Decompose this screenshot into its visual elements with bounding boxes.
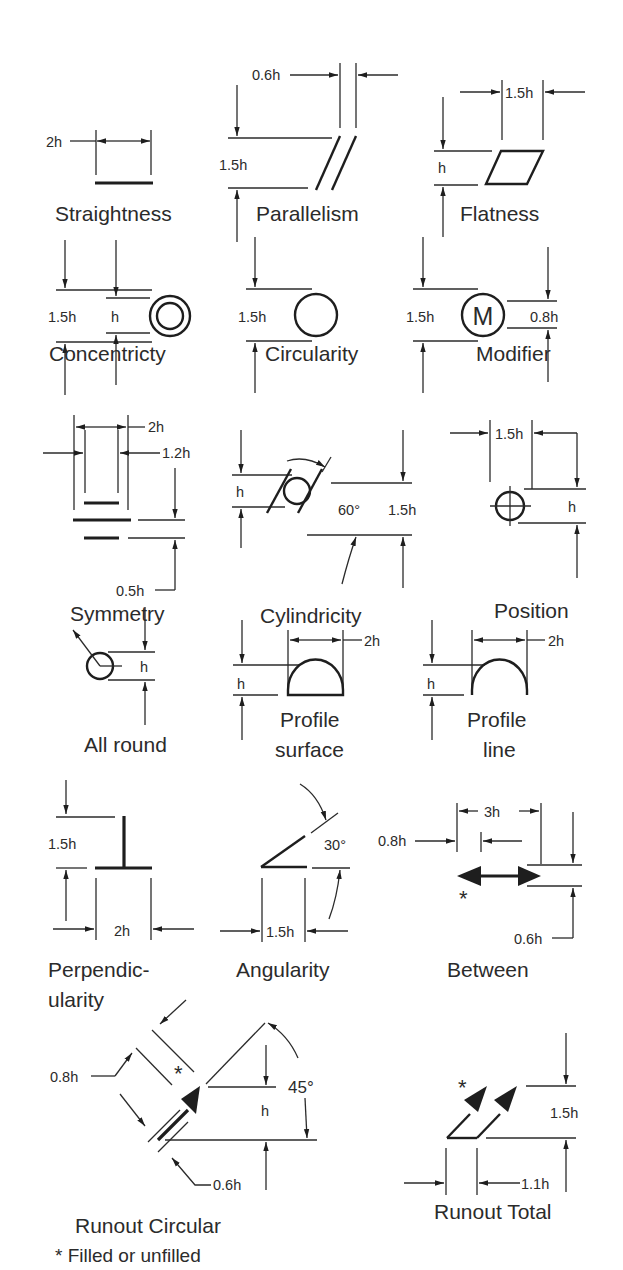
symbol-label-parallelism: Parallelism	[256, 202, 359, 225]
dim-label: 1.2h	[162, 445, 190, 461]
dim-label: 0.8h	[50, 1069, 78, 1085]
dim-label: h	[427, 676, 435, 692]
dim-label: h	[140, 659, 148, 675]
symbol-label-symmetry: Symmetry	[70, 602, 165, 625]
dim-label: 0.5h	[116, 583, 144, 599]
dim-label: h	[236, 484, 244, 500]
all-round-symbol: h All round	[73, 607, 167, 756]
dim-label: 45°	[288, 1078, 314, 1097]
symbol-label-straightness: Straightness	[55, 202, 172, 225]
gdt-symbol-chart: 2h Straightness 0.6h 1.5h Parallelism 1.…	[0, 0, 623, 1270]
dim-label: 1.5h	[505, 85, 533, 101]
straightness-symbol: 2h Straightness	[46, 130, 172, 225]
symbol-label-concentricity: Concentricty	[49, 342, 166, 365]
dim-label: 1.5h	[48, 309, 76, 325]
dim-label: 2h	[548, 633, 564, 649]
symbol-label-profile-line-line1: Profile	[467, 708, 527, 731]
symmetry-symbol: 2h 1.2h 0.5h Symmetry	[43, 415, 190, 625]
footnote: * Filled or unfilled	[55, 1245, 201, 1266]
symbol-label-perpendicularity-line1: Perpendic-	[48, 958, 150, 981]
dim-label: 1.1h	[521, 1176, 549, 1192]
runout-total-symbol: * 1.5h 1.1h Runout Total	[404, 1033, 578, 1223]
symbol-label-profile-line-line2: line	[483, 738, 516, 761]
asterisk-mark: *	[174, 1061, 183, 1086]
dim-label: 0.8h	[530, 309, 558, 325]
flatness-symbol: 1.5h h Flatness	[434, 80, 585, 237]
dim-label: 2h	[364, 633, 380, 649]
symbol-label-profile-surface-line2: surface	[275, 738, 344, 761]
dim-label: 3h	[484, 804, 500, 820]
asterisk-mark: *	[459, 886, 468, 911]
symbol-label-all-round: All round	[84, 733, 167, 756]
symbol-label-flatness: Flatness	[460, 202, 539, 225]
dim-label: 1.5h	[219, 157, 247, 173]
dim-label: 1.5h	[550, 1105, 578, 1121]
profile-surface-symbol: 2h h Profile surface	[233, 620, 380, 761]
symbol-label-runout-total: Runout Total	[434, 1200, 552, 1223]
parallelism-symbol: 0.6h 1.5h Parallelism	[219, 63, 398, 242]
perpendicularity-symbol: 1.5h 2h Perpendic- ularity	[48, 780, 194, 1011]
runout-circular-symbol: * 0.8h h 45° 0.6h Runout Circular	[50, 1000, 317, 1237]
between-symbol: 3h 0.8h * 0.6h Between	[378, 803, 582, 981]
concentricity-symbol: 1.5h h Concentricty	[48, 240, 190, 395]
cylindricity-symbol: h 60° 1.5h Cylindricity	[232, 430, 416, 627]
symbol-label-cylindricity: Cylindricity	[260, 604, 362, 627]
symbol-label-runout-circular: Runout Circular	[75, 1214, 221, 1237]
asterisk-mark: *	[458, 1075, 467, 1100]
dim-label: 30°	[324, 837, 346, 853]
symbol-label-modifier: Modifier	[476, 342, 551, 365]
symbol-label-profile-surface-line1: Profile	[280, 708, 340, 731]
position-symbol: 1.5h h Position	[450, 420, 586, 622]
dim-label: 1.5h	[238, 309, 266, 325]
dim-label: 2h	[148, 419, 164, 435]
dim-label: 2h	[46, 134, 62, 150]
dim-label: 1.5h	[266, 924, 294, 940]
dim-label: 0.8h	[378, 833, 406, 849]
symbol-label-perpendicularity-line2: ularity	[48, 988, 105, 1011]
dim-label: h	[568, 499, 576, 515]
angularity-symbol: 30° 1.5h Angularity	[220, 784, 350, 981]
modifier-symbol: 1.5h M 0.8h Modifier	[406, 237, 558, 393]
dim-label: 1.5h	[495, 426, 523, 442]
dim-label: h	[438, 160, 446, 176]
dim-label: 1.5h	[388, 502, 416, 518]
symbol-label-between: Between	[447, 958, 529, 981]
dim-label: 1.5h	[406, 309, 434, 325]
dim-label: 60°	[338, 502, 360, 518]
symbol-label-angularity: Angularity	[236, 958, 330, 981]
dim-label: h	[237, 676, 245, 692]
dim-label: 0.6h	[514, 931, 542, 947]
dim-label: h	[261, 1103, 269, 1119]
circularity-symbol: 1.5h Circularity	[238, 237, 359, 393]
symbol-label-circularity: Circularity	[265, 342, 359, 365]
dim-label: 0.6h	[213, 1177, 241, 1193]
symbol-label-position: Position	[494, 599, 569, 622]
dim-label: 0.6h	[252, 67, 280, 83]
dim-label: 1.5h	[48, 836, 76, 852]
dim-label: 2h	[114, 923, 130, 939]
profile-line-symbol: 2h h Profile line	[423, 620, 564, 761]
dim-label: h	[111, 309, 119, 325]
modifier-letter: M	[473, 302, 494, 330]
